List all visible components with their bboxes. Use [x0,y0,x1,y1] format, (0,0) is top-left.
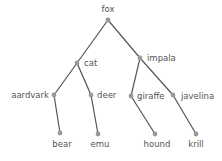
label-emu: emu [91,139,110,149]
label-deer: deer [97,90,117,100]
edge-cat-aardvark [54,63,77,95]
node-aardvark [52,93,57,98]
edge-deer-emu [91,95,98,134]
node-javelina [171,93,176,98]
label-javelina: javelina [180,91,214,101]
label-krill: krill [188,139,204,149]
label-hound: hound [144,139,171,149]
tree-edges [54,20,196,134]
edge-fox-cat [77,20,108,63]
node-bear [58,131,63,136]
node-krill [194,132,199,137]
node-deer [89,93,94,98]
node-cat [75,61,80,66]
label-giraffe: giraffe [137,91,165,101]
label-cat: cat [84,58,98,68]
node-giraffe [129,94,134,99]
node-impala [138,56,143,61]
label-impala: impala [147,53,176,63]
label-bear: bear [52,139,72,149]
node-hound [153,132,158,137]
edge-impala-javelina [140,58,173,95]
tree-nodes [52,18,199,137]
label-fox: fox [102,4,115,14]
tree-diagram: foxcatimpalaaardvarkdeergiraffejavelinab… [0,0,222,161]
label-aardvark: aardvark [11,90,49,100]
edge-giraffe-hound [131,96,155,134]
node-fox [106,18,111,23]
edge-fox-impala [108,20,140,58]
edge-aardvark-bear [54,95,60,133]
node-emu [96,132,101,137]
